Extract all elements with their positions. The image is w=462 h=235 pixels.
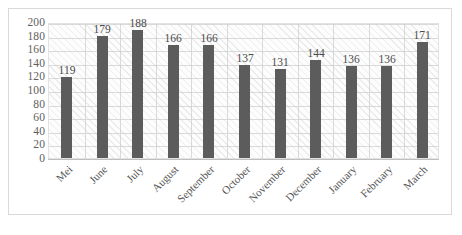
y-axis-tick-label: 80 (11, 99, 45, 111)
gridline-vertical (298, 24, 299, 158)
bar-value-label: 166 (189, 32, 229, 44)
bar-value-label: 166 (153, 32, 193, 44)
y-axis-tick-label: 180 (11, 31, 45, 43)
bar[interactable] (417, 42, 428, 158)
bar[interactable] (275, 69, 286, 158)
bar[interactable] (346, 66, 357, 158)
y-axis-tick-label: 0 (11, 153, 45, 165)
bar-value-label: 188 (118, 17, 158, 29)
bar-value-label: 136 (367, 53, 407, 65)
y-axis-tick-label: 100 (11, 85, 45, 97)
gridline-vertical (262, 24, 263, 158)
bar[interactable] (168, 45, 179, 158)
bar-value-label: 131 (260, 56, 300, 68)
bar[interactable] (61, 77, 72, 158)
bar[interactable] (239, 65, 250, 158)
y-axis-tick-label: 120 (11, 71, 45, 83)
gridline-vertical (191, 24, 192, 158)
y-axis-tick-label: 60 (11, 112, 45, 124)
y-axis-tick-label: 160 (11, 44, 45, 56)
y-axis: 200180160140120100806040200 (9, 23, 45, 159)
plot-area: 119179188166166137131144136136171 (48, 23, 439, 159)
y-axis-tick-label: 40 (11, 126, 45, 138)
bar[interactable] (132, 30, 143, 158)
y-axis-tick-label: 200 (11, 17, 45, 29)
bar-value-label: 179 (82, 23, 122, 35)
y-axis-tick-label: 140 (11, 58, 45, 70)
bar-value-label: 136 (331, 53, 371, 65)
gridline-vertical (120, 24, 121, 158)
bar-value-label: 137 (225, 52, 265, 64)
x-axis-baseline (48, 159, 439, 160)
y-axis-tick-label: 20 (11, 139, 45, 151)
gridline-vertical (369, 24, 370, 158)
bar-value-label: 171 (402, 29, 442, 41)
bar-value-label: 144 (296, 47, 336, 59)
bar[interactable] (310, 60, 321, 158)
gridline-vertical (404, 24, 405, 158)
bar[interactable] (97, 36, 108, 158)
chart-frame: 200180160140120100806040200 119179188166… (8, 8, 452, 215)
bar[interactable] (381, 66, 392, 158)
gridline-vertical (227, 24, 228, 158)
bar[interactable] (203, 45, 214, 158)
gridline-vertical (85, 24, 86, 158)
gridline-vertical (156, 24, 157, 158)
x-axis: MeiJuneJulyAugustSeptemberOctoberNovembe… (48, 161, 439, 215)
bar-value-label: 119 (47, 64, 87, 76)
gridline-vertical (333, 24, 334, 158)
